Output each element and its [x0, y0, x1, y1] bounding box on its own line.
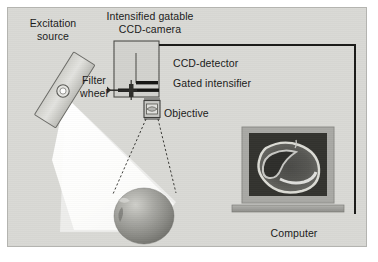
ccd-camera-body: [114, 41, 159, 97]
diagram-panel: Excitation source Intensified gatable CC…: [7, 7, 367, 247]
computer-monitor: [232, 127, 344, 212]
diagram-vector-layer: [8, 8, 367, 247]
label-objective: Objective: [164, 107, 209, 120]
figure-root: Excitation source Intensified gatable CC…: [0, 0, 378, 262]
ccd-detector-bar: [136, 81, 158, 84]
objective-lens-module: [144, 99, 160, 119]
label-filter-wheel: Filter wheel: [72, 74, 116, 99]
label-gated-intensifier: Gated intensifier: [173, 77, 251, 90]
label-computer: Computer: [261, 227, 327, 240]
label-camera-title: Intensified gatable CCD-camera: [92, 10, 208, 35]
apple-specimen: [114, 188, 174, 244]
label-ccd-detector: CCD-detector: [173, 57, 238, 70]
label-excitation-source: Excitation source: [14, 17, 92, 42]
monitor-base: [232, 205, 344, 212]
